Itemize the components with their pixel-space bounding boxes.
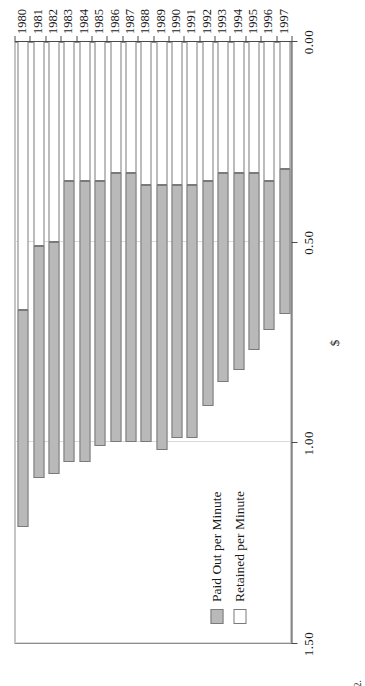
value-axis-title: $ bbox=[326, 42, 342, 644]
category-label-1992: 1992 bbox=[201, 9, 212, 34]
category-axis-tick bbox=[199, 36, 200, 41]
bar-segment-retained bbox=[156, 41, 167, 185]
bar-segment-retained bbox=[217, 41, 228, 173]
category-axis-tick bbox=[245, 36, 246, 41]
category-label-1989: 1989 bbox=[155, 9, 166, 34]
bar-row bbox=[156, 43, 167, 643]
bar-segment-paid-out bbox=[279, 169, 290, 313]
bar-row bbox=[48, 43, 59, 643]
bar-segment-retained bbox=[171, 41, 182, 185]
figure: 1980198119821983198419851986198719881989… bbox=[0, 0, 365, 686]
bar-segment-retained bbox=[63, 41, 74, 181]
value-axis bbox=[291, 42, 293, 644]
value-axis-tick-label: 1.00 bbox=[300, 413, 316, 473]
bar-segment-retained bbox=[110, 41, 121, 173]
category-axis-tick bbox=[137, 36, 138, 41]
category-axis-tick bbox=[14, 36, 15, 41]
category-label-1996: 1996 bbox=[262, 9, 273, 34]
category-axis-tick bbox=[183, 36, 184, 41]
category-label-1993: 1993 bbox=[216, 9, 227, 34]
category-label-1986: 1986 bbox=[109, 9, 120, 34]
source-rest: , FCC (September 1999), Figure 22. bbox=[353, 680, 363, 686]
legend-item-paid-out: Paid Out per Minute bbox=[206, 491, 226, 624]
category-label-1987: 1987 bbox=[124, 9, 135, 34]
category-label-1982: 1982 bbox=[47, 9, 58, 34]
value-axis-tick bbox=[291, 242, 297, 243]
bar-row bbox=[94, 43, 105, 643]
value-axis-tick bbox=[291, 442, 297, 443]
bar-segment-retained bbox=[79, 41, 90, 181]
bar-row bbox=[279, 43, 290, 643]
bar-segment-paid-out bbox=[156, 186, 167, 451]
bar-segment-retained bbox=[186, 41, 197, 185]
bar-segment-paid-out bbox=[171, 186, 182, 439]
bar-row bbox=[110, 43, 121, 643]
category-axis-tick bbox=[229, 36, 230, 41]
bar-row bbox=[17, 43, 28, 643]
category-axis-tick bbox=[168, 36, 169, 41]
bar-segment-retained bbox=[125, 41, 136, 173]
bar-segment-paid-out bbox=[233, 173, 244, 370]
category-label-1984: 1984 bbox=[78, 9, 89, 34]
value-axis-tick-label: 0.00 bbox=[300, 12, 316, 72]
bar-segment-paid-out bbox=[263, 181, 274, 329]
category-axis-tick bbox=[29, 36, 30, 41]
category-axis-tick bbox=[260, 36, 261, 41]
category-axis-tick bbox=[122, 36, 123, 41]
value-axis-tick bbox=[291, 41, 297, 42]
category-axis-tick bbox=[91, 36, 92, 41]
bar-segment-retained bbox=[202, 41, 213, 181]
bar-segment-paid-out bbox=[248, 173, 259, 350]
rotated-figure-wrapper: 1980198119821983198419851986198719881989… bbox=[0, 0, 365, 686]
bar-segment-retained bbox=[279, 41, 290, 169]
category-axis-tick bbox=[76, 36, 77, 41]
bar-segment-paid-out bbox=[217, 173, 228, 382]
category-label-1983: 1983 bbox=[62, 9, 73, 34]
source-note: Source:Trends in the US International Te… bbox=[353, 680, 363, 686]
category-label-1990: 1990 bbox=[170, 9, 181, 34]
value-axis-tick-label: 0.50 bbox=[300, 213, 316, 273]
chart-page: 1980198119821983198419851986198719881989… bbox=[0, 0, 365, 686]
bar-row bbox=[63, 43, 74, 643]
bar-segment-paid-out bbox=[79, 181, 90, 462]
bar-segment-paid-out bbox=[140, 186, 151, 443]
category-label-1994: 1994 bbox=[232, 9, 243, 34]
category-axis-line bbox=[14, 41, 292, 42]
bar-row bbox=[186, 43, 197, 643]
category-label-1985: 1985 bbox=[93, 9, 104, 34]
category-axis-tick bbox=[45, 36, 46, 41]
bar-segment-retained bbox=[248, 41, 259, 173]
bar-segment-retained bbox=[233, 41, 244, 173]
bar-segment-paid-out bbox=[186, 186, 197, 439]
bar-segment-paid-out bbox=[63, 181, 74, 462]
bar-segment-retained bbox=[140, 41, 151, 185]
category-label-1991: 1991 bbox=[185, 9, 196, 34]
category-axis-tick bbox=[60, 36, 61, 41]
bar-segment-paid-out bbox=[48, 242, 59, 475]
bar-segment-paid-out bbox=[125, 173, 136, 442]
bar-segment-paid-out bbox=[110, 173, 121, 442]
legend-item-retained: Retained per Minute bbox=[229, 491, 249, 624]
bar-segment-retained bbox=[33, 41, 44, 246]
category-axis-tick bbox=[153, 36, 154, 41]
bar-row bbox=[171, 43, 182, 643]
category-label-1997: 1997 bbox=[278, 9, 289, 34]
bar-segment-paid-out bbox=[94, 181, 105, 446]
bar-row bbox=[263, 43, 274, 643]
value-axis-tick-label: 1.50 bbox=[300, 614, 316, 674]
category-axis-tick bbox=[276, 36, 277, 41]
bar-segment-retained bbox=[94, 41, 105, 181]
legend-label-paid-out: Paid Out per Minute bbox=[208, 491, 224, 602]
chart-legend: Paid Out per Minute Retained per Minute bbox=[206, 491, 252, 624]
legend-swatch-paid-out bbox=[210, 609, 223, 624]
category-label-1988: 1988 bbox=[139, 9, 150, 34]
bar-segment-paid-out bbox=[17, 310, 28, 527]
legend-label-retained: Retained per Minute bbox=[231, 491, 247, 602]
bar-segment-paid-out bbox=[33, 246, 44, 479]
bar-row bbox=[33, 43, 44, 643]
bar-row bbox=[79, 43, 90, 643]
bar-segment-retained bbox=[263, 41, 274, 181]
category-label-1980: 1980 bbox=[16, 9, 27, 34]
category-axis-tick bbox=[106, 36, 107, 41]
category-label-1995: 1995 bbox=[247, 9, 258, 34]
